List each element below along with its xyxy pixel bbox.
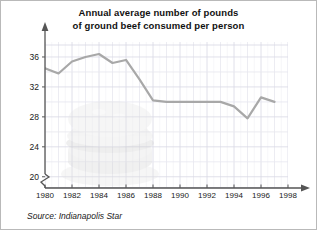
x-tick-label: 1990 [165,191,195,200]
x-tick-label: 1994 [219,191,249,200]
source-note: Source: Indianapolis Star [27,211,122,221]
y-tick-label: 28 [17,112,39,122]
x-tick-label: 1984 [84,191,114,200]
x-tick-label: 1986 [111,191,141,200]
x-tick-label: 1982 [57,191,87,200]
chart-figure: Annual average number of pounds of groun… [0,0,317,230]
x-tick-label: 1996 [246,191,276,200]
y-tick-label: 20 [17,172,39,182]
y-tick-label: 32 [17,82,39,92]
x-tick-label: 1992 [192,191,222,200]
y-tick-label: 36 [17,52,39,62]
y-tick-label: 24 [17,142,39,152]
x-tick-label: 1998 [273,191,303,200]
x-tick-label: 1980 [30,191,60,200]
x-tick-label: 1988 [138,191,168,200]
